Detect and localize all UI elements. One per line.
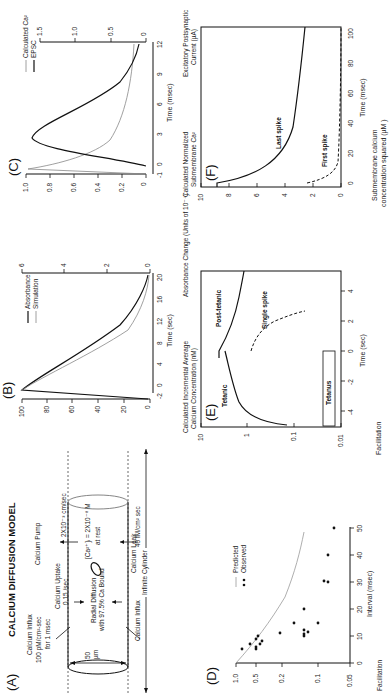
- curve-label-post-tetanic: Post-tetanic: [215, 290, 222, 327]
- xtick: 2: [347, 319, 354, 323]
- x-axis-label: Time (msec): [359, 78, 366, 117]
- xtick: 12: [156, 41, 163, 48]
- ytick: 20: [120, 406, 127, 413]
- xtick: 20: [156, 274, 163, 281]
- radial-diffusion-label: Radial Diffusion: [90, 578, 97, 623]
- curve-label-tetanic: Tetanic: [221, 385, 228, 407]
- panel-c-ylabel-1: Calculated Normalized: [182, 132, 189, 197]
- y-axis-label: Facilitation: [376, 660, 383, 691]
- ytick: 100: [18, 406, 25, 417]
- xtick: 60: [347, 90, 354, 97]
- xtick: -1: [156, 172, 163, 178]
- xtick: 8: [156, 341, 163, 345]
- ytick: 0.6: [70, 183, 77, 192]
- ytick: 1.0: [232, 674, 239, 683]
- ytick: 1.0: [22, 183, 29, 192]
- uptake-label: Calcium Uptake: [54, 563, 61, 609]
- xtick: 10: [356, 633, 363, 640]
- ytick: 2: [309, 193, 316, 197]
- ytick: 0: [337, 193, 344, 197]
- x-axis-label: Time (msec): [166, 83, 173, 122]
- ytick: 6: [253, 193, 260, 197]
- pump-label: Calcium Pump: [34, 523, 41, 565]
- xtick: 20: [356, 606, 363, 613]
- curve-label-single-spike: Single spike: [261, 291, 268, 329]
- ytick: 4: [281, 193, 288, 197]
- ytick-right: 0: [140, 32, 147, 36]
- legend-epsc: EPSC: [30, 40, 37, 58]
- xtick: 0: [347, 349, 354, 353]
- figure: (A) CALCIUM DIFFUSION MODEL: [0, 0, 392, 697]
- panel-f: (F) Last spike First spike 10 8 6 4 2 0 …: [195, 0, 392, 207]
- xtick: 16: [156, 296, 163, 303]
- panel-c: (C) Calculated Ca² EPSC 1.0 0.8 0.6 0.4: [0, 0, 150, 202]
- xtick: 9: [156, 72, 163, 76]
- panel-c-ylabel-right-1: Excitatory Postsynaptic: [182, 10, 189, 77]
- xtick: 12: [156, 318, 163, 325]
- uptake-rate: 0.15 /sec: [62, 579, 69, 605]
- ytick-right: 0.5: [107, 27, 114, 36]
- y-axis-label-2: concentration squared (µM ): [380, 119, 387, 207]
- ytick-right: 6: [18, 263, 25, 267]
- xtick: -2: [156, 393, 163, 399]
- leak-rate: 40 fM/cm² sec: [134, 506, 141, 547]
- ytick: 8: [225, 193, 232, 197]
- y-axis-label: Facilitation: [375, 422, 382, 455]
- xtick: 40: [347, 120, 354, 127]
- ytick: 80: [43, 406, 50, 413]
- diameter-value: 50: [84, 652, 91, 659]
- ytick: 0.01: [337, 434, 344, 447]
- panel-b-ylabel-right: Absorbance Change (Units of 10⁻⁴): [182, 194, 190, 297]
- xtick: 6: [156, 102, 163, 106]
- legend-calculated-ca: Calculated Ca²: [22, 15, 29, 58]
- panel-label: (E): [203, 404, 218, 421]
- cylinder-diagram: [0, 447, 150, 697]
- y-axis-label-1: Submembrane calcium: [371, 129, 378, 201]
- ytick: 0.2: [118, 183, 125, 192]
- xtick: 3: [156, 132, 163, 136]
- xtick: -2: [347, 379, 354, 385]
- panel-d: (D): [200, 497, 392, 697]
- influx-top-label: Calcium Influx: [26, 614, 33, 655]
- ytick: 0.2: [278, 674, 285, 683]
- ytick-right: 1.0: [71, 27, 78, 36]
- xtick: 0: [347, 181, 354, 185]
- legend-absorbance: Absorbance: [24, 274, 31, 309]
- panel-label: (F): [203, 164, 218, 181]
- ytick: 0.8: [46, 183, 53, 192]
- x-axis-label: Interval (msec): [366, 571, 373, 617]
- x-axis-label: Time (sec): [359, 334, 366, 367]
- ytick-right: 2: [103, 263, 110, 267]
- xtick: 20: [347, 150, 354, 157]
- influx-top-duration: for 1 msec: [44, 619, 51, 649]
- ytick: 10: [197, 434, 204, 441]
- legend-simulation: Simulation: [32, 279, 39, 309]
- panel-b-ylabel-1: Calculated Incremental Average: [182, 341, 189, 433]
- rest-concentration: [Ca²⁺]ᵢ = 2X10⁻⁸ M: [84, 503, 92, 559]
- xtick: 0: [156, 383, 163, 387]
- cylinder-label: Infinite Cylinder: [141, 548, 148, 597]
- ytick: 10: [197, 194, 204, 201]
- chart-d-plot: [200, 497, 392, 697]
- legend-observed: Observed: [240, 545, 247, 573]
- ytick: 0.1: [314, 674, 321, 683]
- diameter-unit: µm: [92, 650, 99, 659]
- rest-label: at rest: [94, 527, 101, 545]
- legend-predicted: Predicted: [232, 546, 239, 573]
- ytick: 40: [94, 406, 101, 413]
- xtick: 4: [156, 362, 163, 366]
- influx-top-rate: 100 pM/cm²-sec: [35, 616, 42, 663]
- ytick: 1: [243, 433, 250, 437]
- ytick: 0.05: [346, 674, 353, 687]
- panel-e: (E) Tetanic Post-tetanic Single spike Te…: [195, 257, 392, 457]
- ytick: 0: [140, 182, 147, 186]
- xtick: 40: [356, 552, 363, 559]
- panel-b: (B) Absorbance Simulation 100 80 6: [0, 235, 150, 435]
- xtick: 50: [356, 525, 363, 532]
- ytick: 60: [68, 406, 75, 413]
- panel-a: (A) CALCIUM DIFFUSION MODEL: [0, 447, 150, 697]
- ytick: 0.4: [94, 183, 101, 192]
- panel-c-xaxis: -1 0 3 6 9 12 Time (msec): [150, 0, 176, 202]
- curve-label-last-spike: Last spike: [275, 117, 282, 149]
- xtick: 4: [347, 289, 354, 293]
